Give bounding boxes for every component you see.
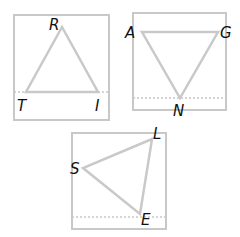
vertex-label-R: R xyxy=(49,16,59,34)
vertex-label-I: I xyxy=(95,97,100,115)
vertex-label-A: A xyxy=(124,24,135,42)
vertex-label-E: E xyxy=(141,211,151,229)
figure-2: A G N xyxy=(124,13,232,120)
vertex-label-S: S xyxy=(70,160,80,178)
vertex-label-T: T xyxy=(17,97,28,115)
figure-1: R T I xyxy=(14,15,109,120)
vertex-label-L: L xyxy=(153,125,161,143)
triangle-RTI xyxy=(26,27,98,92)
triangles-diagram: R T I A G N S L E xyxy=(0,0,240,237)
vertex-label-N: N xyxy=(173,102,184,120)
triangle-SLE xyxy=(83,139,152,214)
figure-3: S L E xyxy=(70,125,166,229)
vertex-label-G: G xyxy=(220,24,232,42)
triangle-AGN xyxy=(142,32,218,98)
